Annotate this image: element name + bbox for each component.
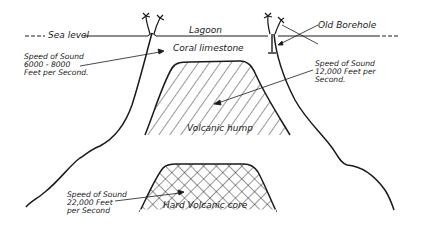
old-borehole-label: Old Borehole: [318, 21, 376, 29]
atoll-cross-section-diagram: Sea level Lagoon Old Borehole Coral lime…: [0, 0, 422, 227]
core-speed-annotation: Speed of Sound 22,000 Feet per Second: [67, 191, 127, 215]
volcanic-hump-label: Volcanic hump: [187, 124, 253, 132]
coral-limestone-label: Coral limestone: [173, 44, 244, 52]
palm-tree-icon: [264, 13, 284, 34]
palm-tree-icon: [142, 13, 164, 34]
hard-core-label: Hard Volcanic core: [163, 201, 247, 209]
lagoon-label: Lagoon: [189, 26, 222, 34]
sea-level-label: Sea level: [48, 31, 89, 39]
hump-speed-annotation: Speed of Sound 12,000 Feet per Second.: [315, 60, 376, 84]
coral-speed-annotation: Speed of Sound 6000 - 8000 Feet per Seco…: [24, 53, 89, 77]
